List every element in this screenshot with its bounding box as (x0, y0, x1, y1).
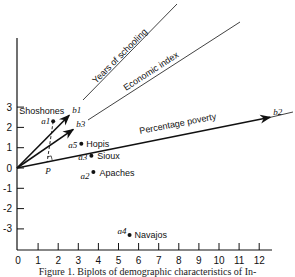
figure-caption: Figure 1. Biplots of demographic charact… (0, 266, 295, 277)
point-a3 (89, 154, 93, 158)
x-tick-label: 3 (76, 255, 82, 266)
x-tick-label: 1 (35, 255, 41, 266)
vector-label-b3: b3 (76, 119, 86, 129)
variable-name-b2: Percentage poverty (138, 111, 217, 136)
point-a1 (51, 119, 55, 123)
x-tick-label: 5 (116, 255, 122, 266)
x-tick-label: 8 (176, 255, 182, 266)
y-tick-label: -3 (3, 223, 12, 234)
x-tick-label: 0 (15, 255, 21, 266)
y-tick-label: -1 (3, 183, 12, 194)
point-name-navajos: Navajos (135, 230, 168, 240)
x-tick-label: 4 (96, 255, 102, 266)
point-name-shoshones: Shoshones (19, 106, 65, 116)
x-tick-label: 10 (213, 255, 225, 266)
point-a2 (91, 170, 95, 174)
y-tick-label: -2 (3, 203, 12, 214)
point-a5 (79, 142, 83, 146)
x-tick-label: 9 (196, 255, 202, 266)
point-label-a2: a2 (80, 171, 90, 181)
point-a4 (128, 233, 132, 237)
vector-label-b1: b1 (72, 105, 81, 115)
y-tick-label: 1 (6, 142, 12, 153)
y-tick-label: 0 (6, 163, 12, 174)
point-name-apaches: Apaches (99, 168, 135, 178)
point-label-a1: a1 (41, 116, 50, 126)
x-tick-label: 2 (55, 255, 61, 266)
y-tick-label: 3 (6, 102, 12, 113)
point-name-sioux: Sioux (97, 151, 120, 161)
vector-label-b2: b2 (273, 107, 283, 117)
y-tick-label: 2 (6, 122, 12, 133)
point-name-hopis: Hopis (86, 139, 110, 149)
x-tick-label: 6 (136, 255, 142, 266)
point-label-a3: a3 (78, 152, 88, 162)
x-tick-label: 11 (234, 255, 245, 266)
x-tick-label: 7 (156, 255, 162, 266)
point-label-a5: a5 (68, 140, 78, 150)
variable-name-b3: Economic index (122, 49, 181, 92)
point-label-a4: a4 (118, 226, 128, 236)
x-tick-label: 12 (254, 255, 266, 266)
projection-label: P (44, 166, 51, 176)
